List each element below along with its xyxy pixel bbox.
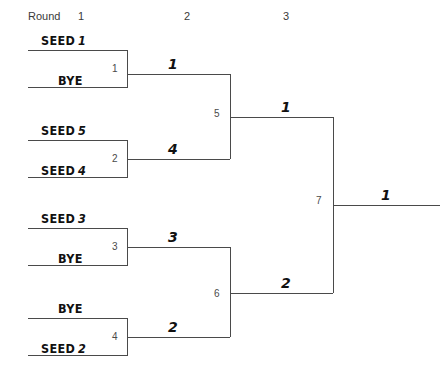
champion-advancer: 1	[381, 187, 391, 203]
round1-match-1-top-seed: 1	[75, 33, 86, 48]
round1-match-3-number: 3	[112, 241, 118, 252]
round3-match-7-top-advancer: 1	[281, 99, 291, 115]
round1-match-4-top-seed	[83, 301, 86, 316]
round1-match-4-bottom-label: SEED	[41, 341, 75, 356]
round2-match-6-top-advancer: 3	[168, 229, 178, 245]
round2-match-5-top-connector	[128, 74, 230, 75]
round1-match-3-top-label: SEED	[41, 211, 75, 226]
round1-match-2-top-seed: 5	[75, 123, 86, 138]
round1-match-2-bottom-seed: 4	[75, 163, 86, 178]
champion-connector	[333, 205, 440, 206]
round3-match-7-number: 7	[316, 195, 322, 206]
round1-match-4-top-competitor: BYE	[58, 301, 86, 316]
round1-match-4-bottom-competitor: SEED2	[41, 341, 86, 356]
round1-match-1-number: 1	[112, 63, 118, 74]
round2-match-6-bottom-advancer: 2	[168, 319, 178, 335]
round1-match-2-top-competitor: SEED5	[41, 123, 86, 138]
round1-match-4-number: 4	[112, 331, 118, 342]
round2-match-6-top-connector	[128, 247, 230, 248]
round-header-label: Round	[28, 10, 60, 22]
round1-match-3-bottom-seed	[83, 251, 86, 266]
tournament-bracket: Round 1 2 3 SEED1 BYE 1 SEED5 SEED4 2 SE…	[0, 0, 447, 379]
round3-match-7-bottom-advancer: 2	[281, 275, 291, 291]
round1-match-4-top-label: BYE	[58, 301, 83, 316]
round3-match-7-top-connector	[230, 117, 333, 118]
round3-match-7-bottom-connector	[230, 293, 333, 294]
round2-match-5-bottom-connector	[128, 159, 230, 160]
round1-match-3-bottom-competitor: BYE	[58, 251, 86, 266]
round2-match-5-bottom-advancer: 4	[168, 141, 178, 157]
round1-match-3-top-seed: 3	[75, 211, 86, 226]
round1-match-3-bottom-label: BYE	[58, 251, 83, 266]
round1-match-1-bottom-label: BYE	[58, 73, 83, 88]
round2-match-5-top-advancer: 1	[168, 56, 178, 72]
round1-match-2-bottom-competitor: SEED4	[41, 163, 86, 178]
round1-match-1-bottom-seed	[83, 73, 86, 88]
round2-match-6-bottom-connector	[128, 337, 230, 338]
round2-match-6-join	[230, 247, 231, 337]
round1-match-2-bottom-label: SEED	[41, 163, 75, 178]
round1-match-1-bottom-competitor: BYE	[58, 73, 86, 88]
round-2-header-number: 2	[184, 10, 190, 22]
round1-match-2-top-label: SEED	[41, 123, 75, 138]
round1-match-2-number: 2	[112, 153, 118, 164]
round1-match-3-top-competitor: SEED3	[41, 211, 86, 226]
round1-match-4-bottom-seed: 2	[75, 341, 86, 356]
round2-match-5-number: 5	[214, 108, 220, 119]
round2-match-6-number: 6	[214, 288, 220, 299]
round1-match-1-top-competitor: SEED1	[41, 33, 86, 48]
round-3-header-number: 3	[283, 10, 289, 22]
round1-match-1-top-label: SEED	[41, 33, 75, 48]
round-1-header-number: 1	[78, 10, 84, 22]
